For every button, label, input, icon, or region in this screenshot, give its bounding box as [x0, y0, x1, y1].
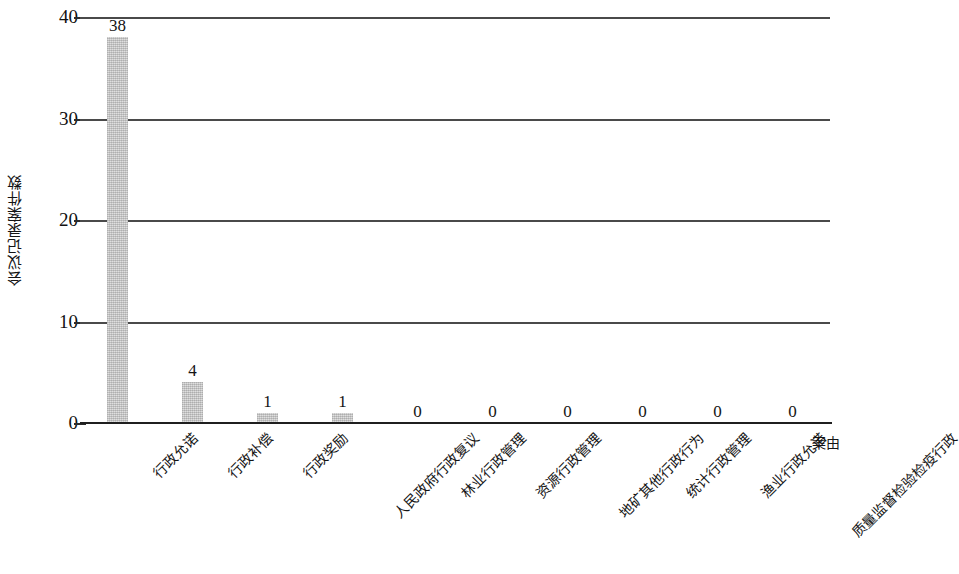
bar-value-label: 1	[248, 393, 288, 410]
x-axis-line	[80, 422, 832, 424]
bar-value-label: 38	[98, 17, 138, 34]
bar-value-label: 1	[323, 393, 363, 410]
gridline	[80, 220, 830, 222]
y-axis-ticks: 010203040	[28, 0, 78, 574]
bar-value-label: 0	[623, 403, 663, 420]
bar-value-label: 0	[548, 403, 588, 420]
y-tick-label: 30	[32, 109, 78, 128]
y-axis-title: 会议记录案件数	[2, 130, 28, 330]
gridline	[80, 322, 830, 324]
x-category-label: 行政奖励	[300, 431, 350, 481]
x-category-label: 行政允诺	[150, 431, 200, 481]
bar[interactable]	[182, 382, 203, 423]
gridline	[80, 119, 830, 121]
x-category-label: 资源行政管理	[533, 431, 603, 501]
x-category-label: 人民政府行政复议	[391, 431, 481, 521]
x-axis-title: 案由	[812, 432, 840, 452]
y-tick-label: 40	[32, 7, 78, 26]
bar[interactable]	[107, 37, 128, 423]
bar-value-label: 4	[173, 362, 213, 379]
x-category-label: 地矿其他行政行为	[616, 431, 706, 521]
bar-value-label: 0	[698, 403, 738, 420]
bar-value-label: 0	[473, 403, 513, 420]
y-tick-label: 10	[32, 312, 78, 331]
bar-value-label: 0	[398, 403, 438, 420]
y-tick-label: 0	[32, 413, 78, 432]
x-category-label: 质量监督检验检疫行政	[850, 431, 959, 541]
bar-value-label: 0	[773, 403, 813, 420]
x-category-label: 行政补偿	[225, 431, 275, 481]
y-tick-label: 20	[32, 210, 78, 229]
gridline	[80, 17, 830, 19]
plot-area: 38411000000	[80, 17, 830, 423]
